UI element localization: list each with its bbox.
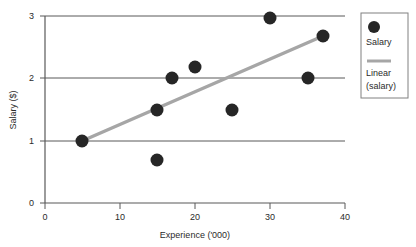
data-point: [76, 135, 89, 148]
y-tick-label-3: 3: [29, 11, 34, 21]
y-axis-title: Salary ($): [8, 90, 18, 129]
x-tick-label-10: 10: [115, 212, 125, 222]
x-tick-label-20: 20: [190, 212, 200, 222]
x-tick-label-0: 0: [42, 212, 47, 222]
scatter-chart: 3 2 1 0 0 10 20 30 40 Experience ('000) …: [0, 0, 416, 247]
data-point: [226, 104, 239, 117]
y-tick-label-0: 0: [29, 198, 34, 208]
chart-svg: 3 2 1 0 0 10 20 30 40 Experience ('000) …: [0, 0, 416, 247]
legend: Salary Linear (salary): [361, 13, 408, 98]
legend-label-linear-2: (salary): [366, 81, 396, 91]
data-point: [302, 72, 315, 85]
data-point: [264, 12, 277, 25]
legend-label-linear-1: Linear: [366, 68, 391, 78]
y-tick-label-1: 1: [29, 136, 34, 146]
y-tick-label-2: 2: [29, 73, 34, 83]
legend-label-salary: Salary: [366, 37, 392, 47]
x-tick-label-40: 40: [340, 212, 350, 222]
chart-background: [0, 0, 416, 247]
data-point: [151, 104, 164, 117]
x-tick-label-30: 30: [265, 212, 275, 222]
data-point: [189, 61, 202, 74]
legend-marker-salary-icon: [368, 21, 380, 33]
data-point: [166, 72, 179, 85]
x-axis-title: Experience ('000): [160, 230, 230, 240]
data-point: [151, 154, 164, 167]
data-point: [317, 30, 330, 43]
